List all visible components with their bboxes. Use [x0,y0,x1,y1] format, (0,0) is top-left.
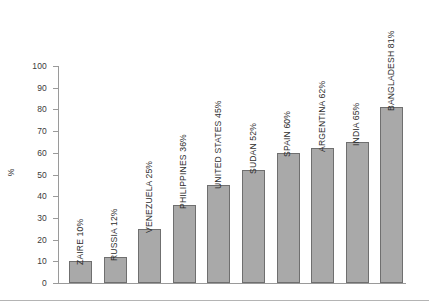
y-axis-tick-label: 70 [7,127,47,136]
bar[interactable] [380,107,403,283]
y-axis-tick [53,175,58,176]
y-axis-title: % [7,169,16,177]
y-axis-tick-label: 20 [7,236,47,245]
y-axis-tick [53,88,58,89]
bar-label: BANGLADESH 81% [387,31,396,111]
bar-label: RUSSIA 12% [110,208,119,261]
y-axis-tick [53,109,58,110]
y-axis-tick [53,131,58,132]
y-axis-tick-label: 40 [7,192,47,201]
y-axis-line [58,66,59,284]
bar[interactable] [311,148,334,283]
bar-label: UNITED STATES 45% [214,101,223,190]
chart-page: 1009080706050403020100 % ZAIRE 10%RUSSIA… [0,0,429,307]
y-axis-tick [53,153,58,154]
y-axis-tick [53,196,58,197]
bar[interactable] [207,185,230,283]
bar[interactable] [346,142,369,283]
bar-label: VENEZUELA 25% [145,161,154,233]
y-axis-tick-label: 30 [7,214,47,223]
x-axis-line [58,283,406,284]
footer-divider [0,300,429,301]
y-axis-tick [53,283,58,284]
y-axis-tick [53,218,58,219]
bar-label: SPAIN 60% [283,111,292,157]
y-axis-tick-label: 80 [7,105,47,114]
y-axis-tick [53,240,58,241]
bar-label: PHILIPPINES 36% [179,134,188,209]
y-axis-tick-label: 60 [7,149,47,158]
bar-label: ARGENTINA 62% [318,81,327,152]
y-axis-tick-label: 100 [7,62,47,71]
y-axis-tick [53,66,58,67]
bar[interactable] [173,205,196,283]
bar-label: ZAIRE 10% [76,219,85,265]
y-axis-tick-label: 90 [7,84,47,93]
bar[interactable] [138,229,161,283]
y-axis-tick-label: 10 [7,257,47,266]
y-axis-tick [53,261,58,262]
bar-chart-plot-area: 1009080706050403020100 % ZAIRE 10%RUSSIA… [0,0,429,307]
y-axis-tick-label: 0 [7,279,47,288]
bar-label: INDIA 65% [352,103,361,146]
bar[interactable] [277,153,300,283]
bar-label: SUDAN 52% [249,123,258,174]
bar[interactable] [242,170,265,283]
